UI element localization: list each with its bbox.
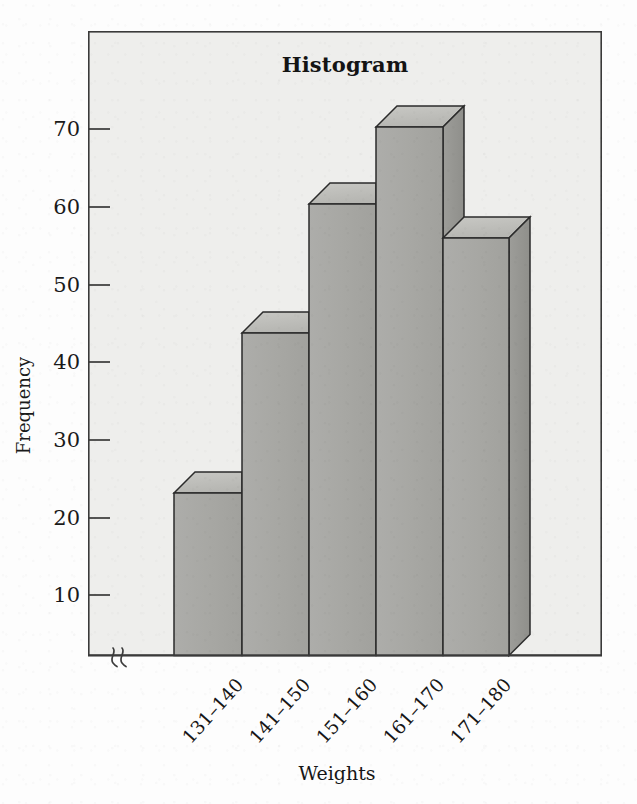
x-tick-label-0: 131–140 bbox=[178, 674, 247, 747]
x-tick-label-2: 151–160 bbox=[312, 674, 381, 747]
x-axis-label: Weights bbox=[0, 762, 637, 784]
x-tick-label-3: 161–170 bbox=[379, 674, 448, 747]
x-tick-label-4: 171–180 bbox=[446, 674, 515, 747]
x-tick-label-1: 141–150 bbox=[245, 674, 314, 747]
x-axis-tick-labels: 131–140 141–150 151–160 161–170 171–180 bbox=[0, 0, 637, 804]
